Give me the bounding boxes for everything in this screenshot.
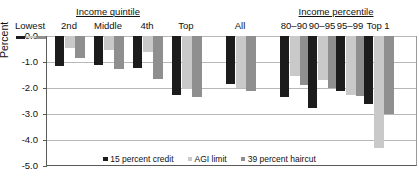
gridline bbox=[47, 114, 416, 115]
bar-chart: Income quintile Income percentile Lowest… bbox=[0, 0, 419, 180]
category-label-all: All bbox=[210, 20, 270, 31]
bar bbox=[374, 36, 384, 148]
bar bbox=[153, 36, 163, 79]
group-header-income-quintile: Income quintile bbox=[64, 6, 152, 17]
bar bbox=[65, 36, 75, 48]
y-axis-tick-label: -4.0 bbox=[0, 134, 38, 145]
bar bbox=[26, 36, 36, 38]
y-axis-tick-label: -2.0 bbox=[0, 82, 38, 93]
bar bbox=[280, 36, 290, 97]
y-axis-tick-mark bbox=[43, 114, 47, 115]
y-axis-tick-label: -3.0 bbox=[0, 108, 38, 119]
legend-swatch bbox=[188, 157, 193, 162]
bar bbox=[75, 36, 85, 58]
group-header-income-percentile: Income percentile bbox=[288, 6, 384, 17]
chart-legend: 15 percent creditAGI limit39 percent hai… bbox=[0, 154, 419, 164]
bar bbox=[36, 36, 46, 39]
bar bbox=[172, 36, 182, 95]
bar bbox=[236, 36, 246, 88]
bar bbox=[318, 36, 328, 80]
y-axis-tick-mark bbox=[43, 88, 47, 89]
y-axis-tick-mark bbox=[43, 140, 47, 141]
bar bbox=[336, 36, 346, 91]
y-axis-tick-mark bbox=[43, 62, 47, 63]
bar bbox=[16, 36, 26, 39]
legend-label: AGI limit bbox=[195, 154, 227, 164]
bar bbox=[143, 36, 153, 52]
legend-item: 15 percent credit bbox=[103, 154, 173, 164]
legend-label: 15 percent credit bbox=[110, 154, 173, 164]
bar bbox=[133, 36, 143, 68]
category-label-top: Top bbox=[156, 20, 216, 31]
bar bbox=[55, 36, 65, 66]
bar bbox=[192, 36, 202, 97]
bar bbox=[346, 36, 356, 95]
plot-area bbox=[46, 36, 417, 166]
category-label-top-1: Top 1 bbox=[348, 20, 408, 31]
legend-item: 39 percent haircut bbox=[241, 154, 316, 164]
bar bbox=[114, 36, 124, 69]
bar bbox=[290, 36, 300, 76]
y-axis-tick-mark bbox=[43, 166, 47, 167]
bar bbox=[246, 36, 256, 91]
bar bbox=[226, 36, 236, 84]
bar bbox=[308, 36, 318, 108]
bar bbox=[94, 36, 104, 65]
legend-item: AGI limit bbox=[188, 154, 227, 164]
legend-label: 39 percent haircut bbox=[248, 154, 316, 164]
y-axis-tick-label: -1.0 bbox=[0, 56, 38, 67]
bar bbox=[182, 36, 192, 89]
gridline bbox=[47, 140, 416, 141]
bar bbox=[364, 36, 374, 104]
legend-swatch bbox=[241, 157, 246, 162]
bar bbox=[104, 36, 114, 50]
bar bbox=[384, 36, 394, 114]
legend-swatch bbox=[103, 157, 108, 162]
